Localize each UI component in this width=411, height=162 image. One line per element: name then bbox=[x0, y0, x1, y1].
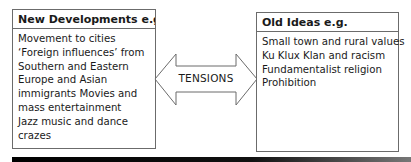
list-item: Small town and rural values bbox=[262, 35, 393, 49]
new-developments-title: New Developments e.g. bbox=[13, 10, 155, 29]
new-developments-box: New Developments e.g. Movement to cities… bbox=[12, 9, 156, 149]
list-item: Prohibition bbox=[262, 76, 393, 90]
list-item: Jazz music and dance bbox=[18, 115, 150, 129]
list-item: crazes bbox=[18, 129, 150, 143]
list-item: Movement to cities bbox=[18, 32, 150, 46]
list-item: Fundamentalist religion bbox=[262, 63, 393, 77]
old-ideas-list: Small town and rural values Ku Klux Klan… bbox=[257, 32, 398, 93]
new-developments-list: Movement to cities ‘Foreign influences’ … bbox=[13, 29, 155, 145]
list-item: ‘Foreign influences’ from bbox=[18, 46, 150, 60]
list-item: Europe and Asian bbox=[18, 73, 150, 87]
old-ideas-title: Old Ideas e.g. bbox=[257, 13, 398, 32]
list-item: Southern and Eastern bbox=[18, 60, 150, 74]
list-item: immigrants Movies and bbox=[18, 87, 150, 101]
list-item: Ku Klux Klan and racism bbox=[262, 49, 393, 63]
bottom-divider-bar bbox=[12, 157, 411, 162]
list-item: mass entertainment bbox=[18, 101, 150, 115]
tensions-label: TENSIONS bbox=[154, 72, 258, 84]
old-ideas-box: Old Ideas e.g. Small town and rural valu… bbox=[256, 12, 399, 152]
